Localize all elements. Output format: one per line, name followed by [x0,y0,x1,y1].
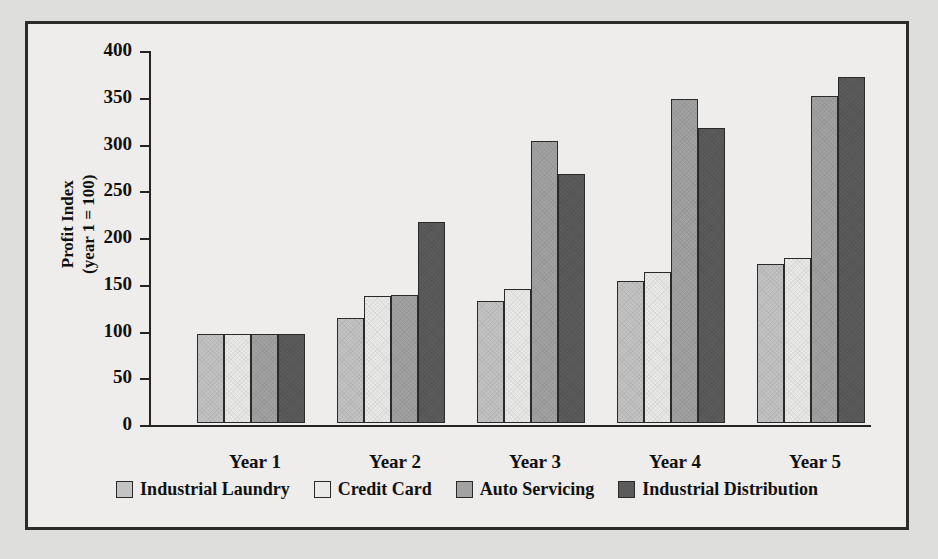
bar[interactable] [531,141,558,423]
x-axis-label-2: Year 2 [337,451,453,473]
bar-group [337,49,453,423]
y-axis-title: Profit Index (year 1 = 100) [50,24,106,424]
y-tick-50: 50 [140,378,151,380]
y-tick-label: 200 [104,227,133,247]
bar[interactable] [698,128,725,423]
y-tick-label: 250 [104,180,133,200]
bar[interactable] [784,258,811,423]
bar[interactable] [224,334,251,423]
y-tick-300: 300 [140,145,151,147]
legend-swatch-icon [314,481,331,498]
bar[interactable] [617,281,644,423]
y-tick-label: 350 [104,87,133,107]
bar[interactable] [504,289,531,423]
legend-label: Industrial Distribution [642,479,818,500]
y-tick-400: 400 [140,51,151,53]
y-tick-label: 150 [104,274,133,294]
legend-label: Credit Card [338,479,432,500]
bar[interactable] [757,264,784,423]
bar[interactable] [391,295,418,423]
plot-area: 400350300250200150100500 Year 1Year 2Yea… [149,51,869,425]
bar-group [757,49,873,423]
y-axis-title-line1: Profit Index [57,174,78,274]
x-axis-line [149,425,871,427]
y-tick-350: 350 [140,98,151,100]
legend-item[interactable]: Auto Servicing [456,479,595,500]
legend-item[interactable]: Industrial Distribution [618,479,818,500]
y-tick-250: 250 [140,191,151,193]
x-axis-label-1: Year 1 [197,451,313,473]
bar-group [617,49,733,423]
legend-label: Auto Servicing [480,479,595,500]
y-axis-title-line2: (year 1 = 100) [78,174,99,274]
legend-label: Industrial Laundry [140,479,290,500]
y-tick-100: 100 [140,332,151,334]
bar[interactable] [364,296,391,423]
x-axis-label-4: Year 4 [617,451,733,473]
bar[interactable] [811,96,838,423]
legend-item[interactable]: Credit Card [314,479,432,500]
bar[interactable] [251,334,278,423]
bar[interactable] [644,272,671,423]
x-axis-label-3: Year 3 [477,451,593,473]
bar[interactable] [337,318,364,423]
x-axis-label-5: Year 5 [757,451,873,473]
chart-legend: Industrial LaundryCredit CardAuto Servic… [28,479,906,500]
bar-group [197,49,313,423]
bar[interactable] [278,334,305,423]
legend-swatch-icon [618,481,635,498]
legend-swatch-icon [456,481,473,498]
y-tick-label: 50 [113,367,132,387]
legend-item[interactable]: Industrial Laundry [116,479,290,500]
y-tick-label: 300 [104,134,133,154]
bar[interactable] [477,301,504,423]
y-tick-200: 200 [140,238,151,240]
bar[interactable] [838,77,865,423]
bar-group [477,49,593,423]
y-tick-label: 100 [104,321,133,341]
y-tick-0: 0 [140,425,151,427]
chart-figure: Profit Index (year 1 = 100) 400350300250… [25,21,909,530]
y-tick-label: 0 [123,414,133,434]
y-tick-label: 400 [104,40,133,60]
bar[interactable] [558,174,585,423]
y-tick-150: 150 [140,285,151,287]
legend-swatch-icon [116,481,133,498]
bar[interactable] [197,334,224,423]
bar[interactable] [671,99,698,423]
bar[interactable] [418,222,445,423]
